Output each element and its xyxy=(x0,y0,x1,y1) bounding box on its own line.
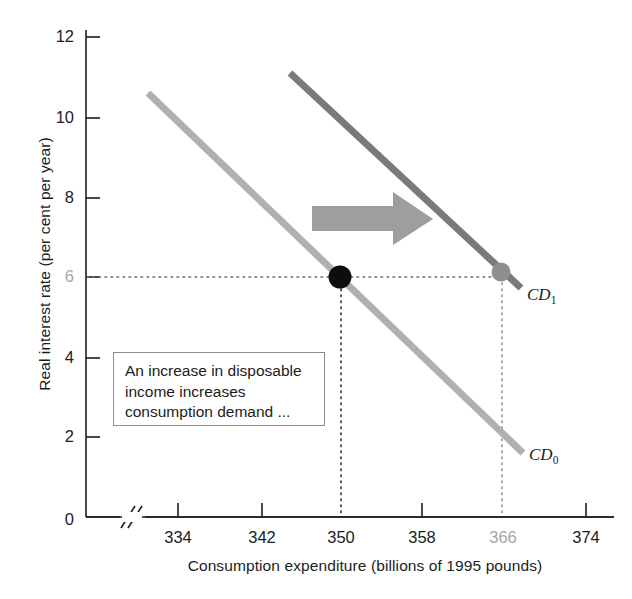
y-tick-label-2: 2 xyxy=(40,427,74,446)
shift-arrow-icon xyxy=(312,192,433,245)
x-tick-label-366: 366 xyxy=(473,528,533,547)
x-tick-label-358: 358 xyxy=(392,528,452,547)
y-tick-label-4: 4 xyxy=(40,348,74,367)
curve-label-cd0-text: CD xyxy=(529,445,553,464)
explanation-text: An increase in disposable income increas… xyxy=(125,361,314,423)
x-tick-label-374: 374 xyxy=(556,528,616,547)
y-tick-label-8: 8 xyxy=(40,188,74,207)
curve-label-cd0-subscript: 0 xyxy=(553,454,559,466)
x-tick-label-342: 342 xyxy=(232,528,292,547)
x-axis-ticks xyxy=(178,503,586,517)
equilibrium-cd1-marker xyxy=(492,263,511,282)
y-axis-ticks xyxy=(86,37,100,437)
curve-label-cd1-subscript: 1 xyxy=(551,294,557,306)
y-tick-label-10: 10 xyxy=(40,108,74,127)
x-tick-label-350: 350 xyxy=(311,528,371,547)
explanation-textbox: An increase in disposable income increas… xyxy=(113,352,325,426)
y-tick-label-12: 12 xyxy=(40,27,74,46)
curve-label-cd1-text: CD xyxy=(527,285,551,304)
curve-label-cd1: CD1 xyxy=(527,285,556,306)
x-axis-title: Consumption expenditure (billions of 199… xyxy=(130,557,600,575)
equilibrium-cd0-marker xyxy=(329,266,352,289)
economics-chart-figure: Real interest rate (per cent per year) C… xyxy=(0,0,632,599)
y-tick-label-0: 0 xyxy=(40,510,74,529)
y-tick-label-6: 6 xyxy=(40,267,74,286)
curve-label-cd0: CD0 xyxy=(529,445,558,466)
x-tick-label-334: 334 xyxy=(148,528,208,547)
y-axis-title: Real interest rate (per cent per year) xyxy=(36,99,54,429)
curve-cd1 xyxy=(290,73,521,288)
